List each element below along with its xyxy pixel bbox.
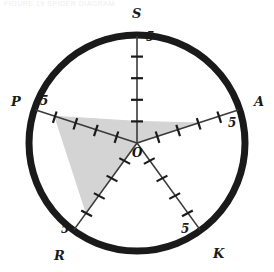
origin-label: O [132,146,143,160]
axis-p-tick-value: 5 [40,94,48,108]
axis-label-k: K [212,246,225,261]
axis-label-a: A [252,94,264,109]
axis-label-p: P [10,94,22,109]
axis-a-tick-value: 5 [228,116,236,130]
axis-r-tick-value: 5 [61,222,69,236]
axis-s-tick-value: 5 [146,30,154,44]
spider-diagram-screenshot: FIGURE 19 SPIDER DIAGRAM 5 S 5 A [0,0,274,272]
axis-k [137,143,206,234]
radar-chart: 5 S 5 A 5 K [0,0,274,272]
axis-label-r: R [53,248,65,263]
axis-label-s: S [132,6,141,21]
axis-k-line [137,143,201,230]
axis-k-tick-value: 5 [181,222,189,236]
